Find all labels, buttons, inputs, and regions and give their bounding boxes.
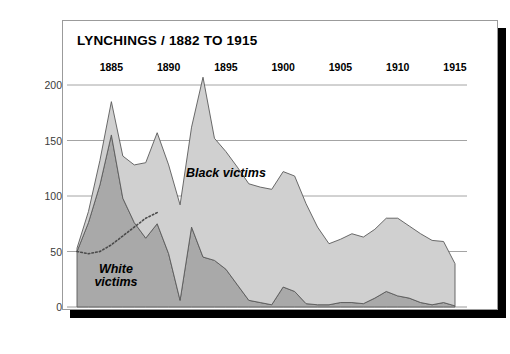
x-axis-tick-label: 1910	[386, 61, 409, 73]
y-axis-tick-label: 50	[28, 246, 62, 258]
x-axis-tick-label: 1885	[100, 61, 123, 73]
series-annotation-black victims: Black victims	[186, 167, 266, 181]
screenshot-root: LYNCHINGS / 1882 TO 1915 050100150200188…	[0, 0, 510, 354]
y-axis-tick-label: 0	[28, 301, 62, 313]
y-axis-tick-label: 200	[28, 79, 62, 91]
x-axis-tick-label: 1905	[329, 61, 352, 73]
x-axis-tick-label: 1895	[214, 61, 237, 73]
x-axis-tick-label: 1890	[157, 61, 180, 73]
y-axis-tick-label: 150	[28, 135, 62, 147]
series-annotation-white: Whitevictims	[94, 262, 137, 289]
x-axis-tick-label: 1900	[271, 61, 294, 73]
x-axis-tick-label: 1915	[443, 61, 466, 73]
y-axis-tick-label: 100	[28, 190, 62, 202]
